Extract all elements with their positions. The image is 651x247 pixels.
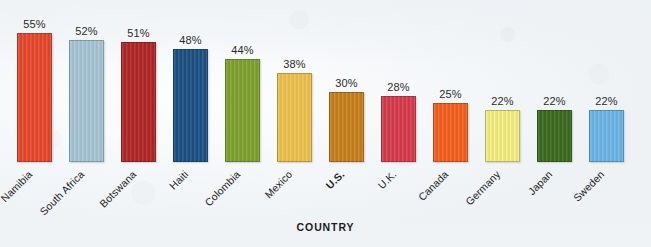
bar-rect[interactable] xyxy=(381,96,416,162)
bar-category-label: U.S. xyxy=(323,168,346,191)
bar-value-label: 22% xyxy=(543,95,566,107)
bar-value-label: 55% xyxy=(23,18,46,30)
x-axis-title: COUNTRY xyxy=(0,221,651,233)
bar-category-label: Mexico xyxy=(262,168,294,200)
bar-category-label: Namibia xyxy=(0,168,34,204)
bar-group: 22%Germany xyxy=(485,110,520,162)
bar-group: 44%Colombia xyxy=(225,59,260,162)
bar-group: 22%Japan xyxy=(537,110,572,162)
bar-value-label: 30% xyxy=(335,77,358,89)
bar-value-label: 38% xyxy=(283,58,306,70)
bar-rect[interactable] xyxy=(69,40,104,162)
bar-group: 55%Namibia xyxy=(17,33,52,162)
bar-group: 52%South Africa xyxy=(69,40,104,162)
bar-category-label: Japan xyxy=(525,168,554,197)
bar-rect[interactable] xyxy=(329,92,364,162)
bar-rect[interactable] xyxy=(433,103,468,162)
plot-area: 55%Namibia52%South Africa51%Botswana48%H… xyxy=(0,0,651,247)
bar-group: 22%Sweden xyxy=(589,110,624,162)
bar-group: 25%Canada xyxy=(433,103,468,162)
bar-category-label: South Africa xyxy=(37,168,86,217)
bar-value-label: 48% xyxy=(179,34,202,46)
bar-rect[interactable] xyxy=(121,42,156,162)
bar-value-label: 22% xyxy=(491,95,514,107)
bar-value-label: 28% xyxy=(387,81,410,93)
bar-rect[interactable] xyxy=(277,73,312,162)
bar-group: 30%U.S. xyxy=(329,92,364,162)
bar-category-label: Colombia xyxy=(202,168,242,208)
bar-rect[interactable] xyxy=(537,110,572,162)
bar-value-label: 25% xyxy=(439,88,462,100)
bar-category-label: Germany xyxy=(463,168,503,208)
bar-value-label: 22% xyxy=(595,95,618,107)
bar-group: 51%Botswana xyxy=(121,42,156,162)
bar-group: 48%Haiti xyxy=(173,49,208,162)
bar-group: 28%U.K. xyxy=(381,96,416,162)
bar-category-label: U.K. xyxy=(375,168,398,191)
bar-value-label: 44% xyxy=(231,44,254,56)
bar-rect[interactable] xyxy=(173,49,208,162)
bar-rect[interactable] xyxy=(17,33,52,162)
bar-category-label: Botswana xyxy=(97,168,139,210)
bar-category-label: Haiti xyxy=(167,168,191,192)
bar-category-label: Canada xyxy=(416,168,451,203)
bar-rect[interactable] xyxy=(225,59,260,162)
bar-rect[interactable] xyxy=(485,110,520,162)
bar-chart-figure: 55%Namibia52%South Africa51%Botswana48%H… xyxy=(0,0,651,247)
bar-value-label: 52% xyxy=(75,25,98,37)
bar-group: 38%Mexico xyxy=(277,73,312,162)
bar-category-label: Sweden xyxy=(571,168,607,204)
bar-rect[interactable] xyxy=(589,110,624,162)
bar-value-label: 51% xyxy=(127,27,150,39)
